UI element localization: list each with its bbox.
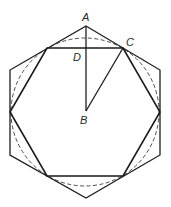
label-d: D: [73, 51, 81, 63]
inner-hexagon: [10, 48, 160, 176]
geometry-diagram: A C D B: [0, 0, 171, 207]
label-b: B: [80, 114, 87, 126]
inscribed-circle: [11, 38, 159, 186]
label-a: A: [81, 11, 89, 23]
outer-hexagon: [10, 26, 160, 198]
segment-bc: [86, 48, 123, 111]
label-c: C: [126, 36, 134, 48]
